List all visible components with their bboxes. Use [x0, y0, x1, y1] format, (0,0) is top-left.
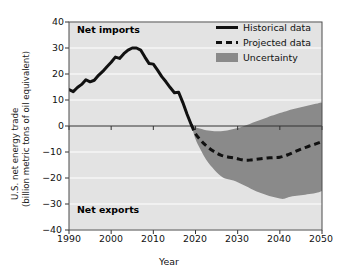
- y-tick-marks: [65, 22, 69, 230]
- zone-label-net-exports: Net exports: [77, 204, 139, 215]
- filled-patch-icon: [216, 52, 238, 63]
- x-tick-label: 2020: [175, 234, 215, 244]
- chart-legend: Historical data Projected data Uncertain…: [216, 20, 311, 65]
- solid-line-icon: [216, 22, 238, 33]
- legend-item-uncertainty: Uncertainty: [216, 50, 311, 65]
- legend-label: Projected data: [243, 37, 311, 48]
- chart-figure: U.S. net energy trade (billion metric to…: [0, 0, 338, 276]
- x-tick-label: 2000: [91, 234, 131, 244]
- legend-label: Uncertainty: [243, 52, 298, 63]
- dashed-line-icon: [216, 37, 238, 48]
- x-axis-label: Year: [0, 256, 338, 267]
- x-tick-label: 2050: [301, 234, 338, 244]
- x-tick-label: 2010: [133, 234, 173, 244]
- x-tick-label: 1990: [49, 234, 89, 244]
- legend-item-historical-data: Historical data: [216, 20, 311, 35]
- x-tick-label: 2040: [259, 234, 299, 244]
- x-tick-label: 2030: [217, 234, 257, 244]
- legend-label: Historical data: [243, 22, 311, 33]
- zone-label-net-imports: Net imports: [77, 24, 140, 35]
- legend-item-projected-data: Projected data: [216, 35, 311, 50]
